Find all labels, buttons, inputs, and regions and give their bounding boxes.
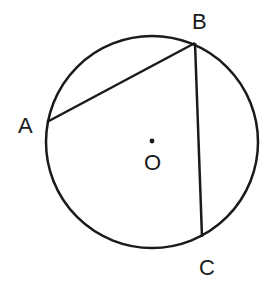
chord-bc [195,43,202,237]
circle-diagram: A B C O [0,0,272,289]
label-a: A [18,113,33,138]
label-o: O [144,150,161,175]
center-point [150,139,155,144]
label-c: C [199,255,215,280]
chord-ab [47,43,195,122]
label-b: B [192,9,207,34]
